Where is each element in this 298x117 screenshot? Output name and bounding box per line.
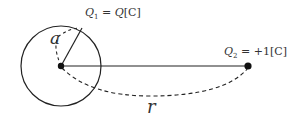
charge2-label: Q2 = +1[C] — [224, 45, 287, 60]
charge1-label: Q1 = Q[C] — [85, 6, 141, 21]
radius-line — [61, 28, 82, 66]
distance-dimension-arc — [62, 68, 248, 96]
distance-label: r — [147, 96, 157, 117]
charge2-point — [244, 62, 251, 69]
sphere-center-point — [58, 63, 64, 69]
coulomb-diagram: a Q1 = Q[C] Q2 = +1[C] r — [0, 0, 298, 117]
radius-label: a — [50, 28, 60, 48]
